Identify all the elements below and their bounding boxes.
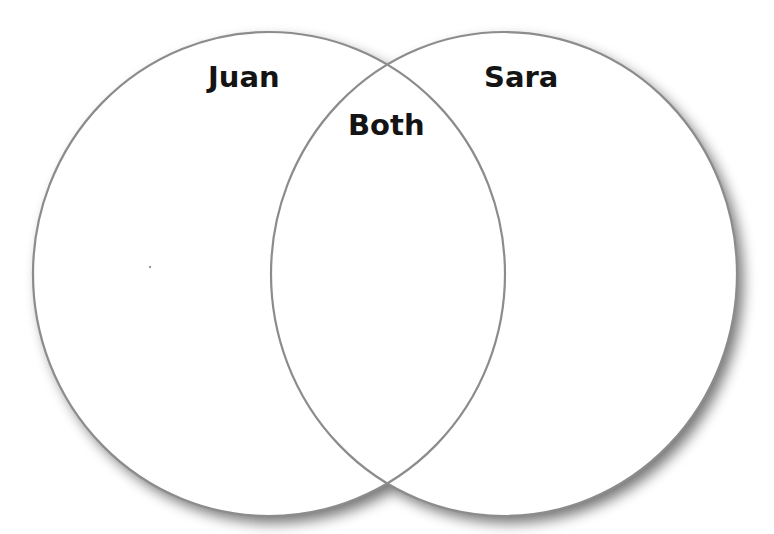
circle-shadows <box>33 32 737 516</box>
intersection-label: Both <box>348 111 425 140</box>
sara-set-label: Sara <box>484 63 558 92</box>
venn-diagram <box>0 0 774 534</box>
juan-set-label: Juan <box>208 63 280 92</box>
speck-mark <box>149 266 151 268</box>
